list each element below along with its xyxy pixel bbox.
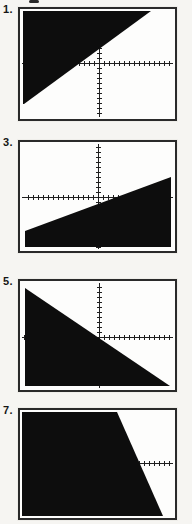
inequality-graph-3 [22, 144, 173, 249]
calculator-screen-frame [18, 279, 177, 392]
calculator-screen-frame [18, 408, 177, 520]
exercise-number-label: 3. [3, 136, 13, 148]
exercise-panel-1: 1. [0, 3, 192, 123]
exercise-number-label: 7. [3, 404, 13, 416]
calculator-screen-frame [18, 7, 177, 121]
exercise-number-label: 5. [3, 275, 13, 287]
exercise-panel-5: 5. [0, 275, 192, 395]
exercise-panel-7: 7. [0, 404, 192, 524]
exercise-panel-3: 3. [0, 136, 192, 256]
inequality-graph-1 [22, 11, 173, 117]
inequality-graph-7 [22, 412, 173, 516]
exercise-number-label: 1. [3, 3, 13, 15]
inequality-graph-5 [22, 283, 173, 388]
calculator-screen-frame [18, 140, 177, 253]
